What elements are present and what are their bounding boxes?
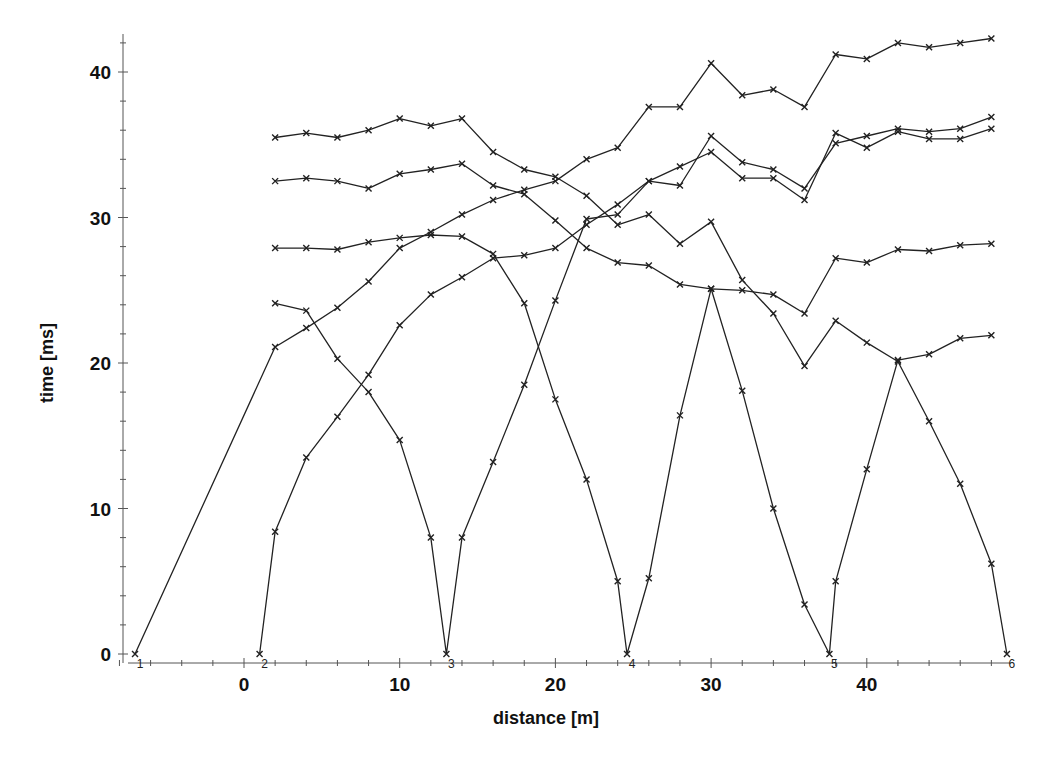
- x-marker-icon: [490, 197, 496, 203]
- x-marker-icon: [490, 459, 496, 465]
- x-tick-label: 10: [389, 674, 410, 695]
- x-marker-icon: [272, 344, 278, 350]
- x-marker-icon: [802, 602, 808, 608]
- series-shot-1: [132, 36, 994, 657]
- x-marker-icon: [708, 149, 714, 155]
- x-marker-icon: [802, 311, 808, 317]
- x-marker-icon: [646, 212, 652, 218]
- series-group: [132, 36, 1010, 657]
- shot-label: 3: [448, 657, 455, 671]
- y-tick-label: 20: [90, 353, 111, 374]
- shot-label: 2: [261, 657, 268, 671]
- shot-label: 5: [831, 657, 838, 671]
- x-marker-icon: [521, 382, 527, 388]
- x-marker-icon: [428, 292, 434, 298]
- x-marker-icon: [303, 325, 309, 331]
- shot-label: 6: [1009, 657, 1016, 671]
- x-marker-icon: [397, 245, 403, 251]
- x-marker-icon: [366, 372, 372, 378]
- x-marker-icon: [615, 145, 621, 151]
- x-marker-icon: [303, 455, 309, 461]
- x-marker-icon: [490, 251, 496, 257]
- x-marker-icon: [459, 212, 465, 218]
- x-marker-icon: [552, 396, 558, 402]
- series-shot-3: [272, 114, 994, 657]
- x-marker-icon: [334, 414, 340, 420]
- x-marker-icon: [926, 418, 932, 424]
- y-tick-label: 0: [100, 644, 111, 665]
- y-axis-title: time [ms]: [37, 323, 57, 403]
- x-axis-title: distance [m]: [493, 708, 599, 728]
- series-shot-6: [272, 116, 1010, 657]
- x-marker-icon: [770, 311, 776, 317]
- shot-labels: 123456: [137, 657, 1016, 671]
- x-marker-icon: [366, 279, 372, 285]
- x-marker-icon: [739, 277, 745, 283]
- x-tick-label: 0: [239, 674, 250, 695]
- y-tick-label: 40: [90, 62, 111, 83]
- x-marker-icon: [677, 241, 683, 247]
- axes: 010203040010203040: [90, 34, 1010, 695]
- x-marker-icon: [708, 133, 714, 139]
- x-marker-icon: [521, 300, 527, 306]
- x-marker-icon: [864, 145, 870, 151]
- x-marker-icon: [833, 318, 839, 324]
- x-marker-icon: [802, 185, 808, 191]
- series-shot-5: [272, 161, 994, 657]
- x-marker-icon: [584, 193, 590, 199]
- x-marker-icon: [584, 156, 590, 162]
- x-marker-icon: [864, 340, 870, 346]
- x-marker-icon: [708, 60, 714, 66]
- x-marker-icon: [397, 322, 403, 328]
- x-marker-icon: [334, 305, 340, 311]
- x-marker-icon: [552, 217, 558, 223]
- shot-label: 1: [137, 657, 144, 671]
- x-marker-icon: [552, 297, 558, 303]
- x-marker-icon: [833, 130, 839, 136]
- x-marker-icon: [584, 245, 590, 251]
- x-marker-icon: [366, 389, 372, 395]
- x-marker-icon: [708, 219, 714, 225]
- x-marker-icon: [802, 197, 808, 203]
- x-tick-label: 30: [701, 674, 722, 695]
- series-shot-4: [272, 232, 994, 657]
- y-tick-label: 30: [90, 208, 111, 229]
- y-tick-label: 10: [90, 499, 111, 520]
- x-marker-icon: [957, 481, 963, 487]
- x-marker-icon: [802, 104, 808, 110]
- x-marker-icon: [677, 164, 683, 170]
- x-tick-label: 20: [545, 674, 566, 695]
- x-marker-icon: [615, 201, 621, 207]
- traveltime-chart: 010203040010203040 123456 distance [m] t…: [0, 0, 1044, 757]
- x-tick-label: 40: [856, 674, 877, 695]
- x-marker-icon: [334, 356, 340, 362]
- x-marker-icon: [988, 114, 994, 120]
- x-marker-icon: [490, 149, 496, 155]
- shot-label: 4: [629, 657, 636, 671]
- x-marker-icon: [802, 363, 808, 369]
- x-marker-icon: [459, 274, 465, 280]
